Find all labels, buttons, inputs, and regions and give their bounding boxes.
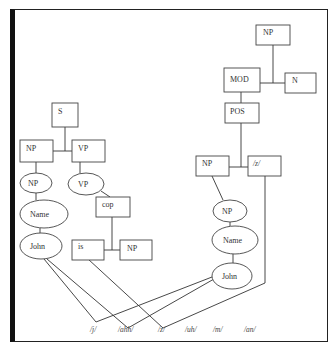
ellipse-name-right: Name: [212, 226, 258, 254]
svg-text:NP: NP: [202, 159, 213, 168]
parse-tree-diagram: S NP VP NP VP Name John cop is NP NP: [0, 0, 336, 356]
svg-text:is: is: [78, 242, 83, 251]
svg-text:NP: NP: [263, 28, 274, 37]
phoneme-ahh: /ahh/: [117, 325, 134, 334]
svg-text:John: John: [222, 272, 237, 281]
svg-text:MOD: MOD: [230, 75, 249, 84]
svg-text:John: John: [30, 242, 45, 251]
ellipse-vp: VP: [68, 173, 104, 195]
node-mod: MOD: [224, 68, 260, 92]
node-z: /z/: [248, 156, 281, 176]
phoneme-uh: /uh/: [184, 325, 198, 334]
svg-text:NP: NP: [28, 179, 39, 188]
node-cop: cop: [96, 197, 130, 217]
svg-text:N: N: [292, 76, 298, 85]
svg-text:/z/: /z/: [252, 159, 261, 168]
svg-text:VP: VP: [78, 180, 89, 189]
svg-text:Name: Name: [223, 236, 243, 245]
svg-text:cop: cop: [102, 200, 114, 209]
node-np-right: NP: [196, 156, 229, 176]
svg-text:POS: POS: [230, 107, 245, 116]
svg-text:Name: Name: [30, 210, 50, 219]
svg-text:NP: NP: [127, 244, 138, 253]
phoneme-m: /m/: [212, 325, 224, 334]
phoneme-z: /z/: [157, 325, 166, 334]
node-np-left: NP: [20, 140, 53, 162]
node-vp: VP: [72, 140, 105, 162]
svg-text:NP: NP: [222, 207, 233, 216]
phoneme-j: /j/: [89, 325, 97, 334]
node-np-root-right: NP: [256, 25, 290, 45]
node-np-object: NP: [120, 240, 152, 260]
node-pos: POS: [225, 103, 259, 123]
ellipse-name-left: Name: [20, 200, 68, 228]
svg-text:VP: VP: [78, 144, 89, 153]
node-is: is: [72, 240, 104, 260]
svg-text:S: S: [58, 107, 62, 116]
svg-text:NP: NP: [26, 144, 37, 153]
node-s: S: [52, 103, 78, 127]
node-n: N: [285, 73, 316, 93]
ellipse-john-left: John: [20, 233, 62, 259]
ellipse-np-left: NP: [20, 173, 52, 193]
ellipse-john-right: John: [212, 263, 252, 289]
ellipse-np-right: NP: [213, 200, 247, 222]
phoneme-an: /an/: [243, 325, 257, 334]
phoneme-row: /j/ /ahh/ /z/ /uh/ /m/ /an/: [89, 325, 257, 334]
